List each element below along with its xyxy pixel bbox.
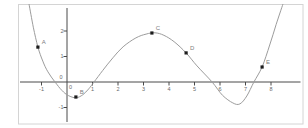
x-tick-label: 7 (244, 86, 247, 92)
point-D-label: D (190, 45, 195, 51)
x-tick-label: 2 (116, 86, 119, 92)
point-A-label: A (42, 39, 46, 45)
point-B-marker (74, 95, 77, 98)
point-B-label: B (80, 89, 84, 95)
y-tick-label: 1 (60, 53, 63, 59)
x-tick-label: 0 (69, 84, 72, 90)
x-tick-label: 5 (193, 86, 196, 92)
x-tick-label: 4 (167, 86, 170, 92)
y-tick-label: -1 (59, 104, 64, 110)
y-tick-label: 2 (60, 28, 63, 34)
x-tick-label: 3 (142, 86, 145, 92)
plot-canvas: -1012345678-1012ABCDE (0, 0, 308, 128)
point-C-marker (150, 31, 153, 34)
point-E-label: E (266, 59, 270, 65)
function-plot-figure: -1012345678-1012ABCDE (0, 0, 308, 128)
x-tick-label: 8 (269, 86, 272, 92)
point-E-marker (261, 65, 264, 68)
point-D-marker (185, 51, 188, 54)
x-tick-label: -1 (39, 86, 44, 92)
x-tick-label: 1 (91, 86, 94, 92)
point-C-label: C (156, 25, 161, 31)
y-tick-label: 0 (59, 74, 62, 80)
point-A-marker (36, 46, 39, 49)
